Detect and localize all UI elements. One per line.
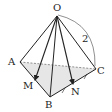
- label-b: B: [45, 99, 52, 110]
- label-n: N: [71, 86, 80, 97]
- length-arc-oc: [58, 15, 95, 66]
- label-o: O: [53, 2, 61, 13]
- tetrahedron-diagram: O A B C M N 2: [0, 0, 112, 112]
- label-m: M: [23, 80, 33, 91]
- edge-oa: [20, 16, 57, 62]
- label-length-2: 2: [82, 33, 88, 44]
- label-a: A: [7, 56, 16, 67]
- label-c: C: [97, 65, 105, 76]
